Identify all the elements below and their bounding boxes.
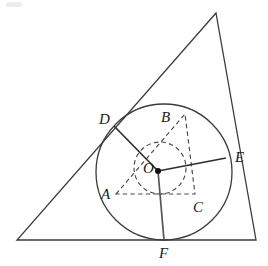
tangent-label-f: F: [159, 246, 168, 261]
inner-dashed-triangle: [116, 114, 195, 194]
radius-segment-oe: [158, 158, 226, 171]
vertex-label-c: C: [193, 200, 203, 215]
geometry-canvas: [0, 0, 268, 266]
vertex-label-b: B: [161, 110, 170, 125]
radius-segment-of: [158, 171, 164, 240]
tangent-label-d: D: [99, 112, 110, 127]
tangent-label-e: E: [235, 150, 244, 165]
center-label-o: O: [143, 161, 154, 176]
geometry-figure: A B C D E F O: [0, 0, 268, 266]
vertex-label-a: A: [101, 187, 110, 202]
center-point-dot: [155, 168, 161, 174]
circumscribing-triangle: [17, 13, 256, 240]
